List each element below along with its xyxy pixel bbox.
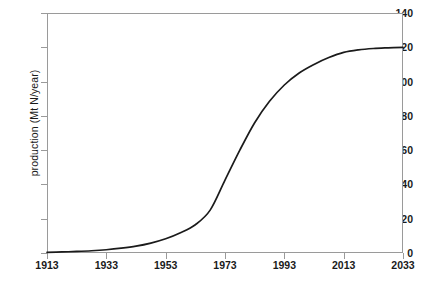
y-tick-label: 60 <box>401 144 413 156</box>
x-tick-mark <box>47 253 48 259</box>
x-tick-mark <box>166 253 167 259</box>
x-tick-label: 2033 <box>391 259 414 271</box>
x-tick-mark <box>284 253 285 259</box>
x-tick-label: 1933 <box>95 259 118 271</box>
y-tick-label: 40 <box>401 178 413 190</box>
plot-svg <box>47 13 403 253</box>
x-tick-mark <box>225 253 226 259</box>
y-tick-label: 0 <box>407 247 413 259</box>
x-tick-mark <box>344 253 345 259</box>
chart-figure: production (Mt N/year) 02040608010012014… <box>0 0 421 288</box>
x-tick-label: 1993 <box>273 259 296 271</box>
y-tick-label: 20 <box>401 213 413 225</box>
x-tick-mark <box>403 253 404 259</box>
y-tick-label: 80 <box>401 110 413 122</box>
x-tick-label: 1913 <box>35 259 58 271</box>
x-tick-label: 1953 <box>154 259 177 271</box>
production-line <box>47 47 403 252</box>
x-tick-label: 1973 <box>213 259 236 271</box>
y-axis-label: production (Mt N/year) <box>28 23 40 223</box>
x-tick-mark <box>106 253 107 259</box>
x-tick-label: 2013 <box>332 259 355 271</box>
